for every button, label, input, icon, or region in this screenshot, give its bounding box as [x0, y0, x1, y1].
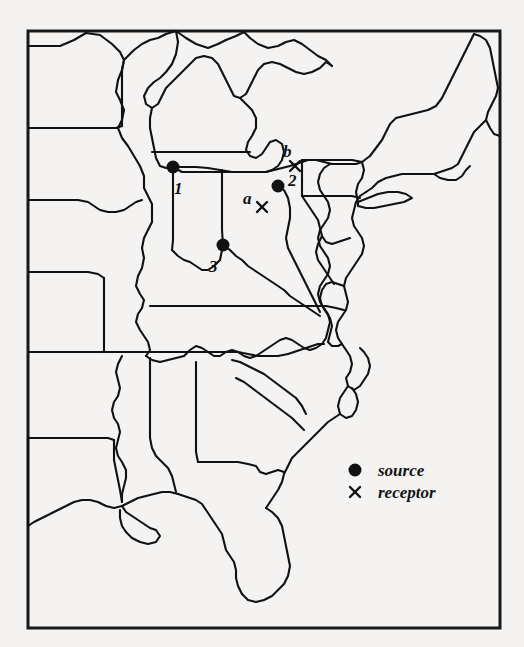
state-outlines: [28, 31, 500, 602]
border-maine-north: [474, 34, 498, 88]
us-map-svg: [0, 0, 524, 647]
border-georgia-alabama: [196, 362, 198, 462]
coast-michigan-lower-east: [173, 98, 284, 172]
border-minnesota-north: [28, 31, 176, 60]
legend-source-dot: [349, 464, 362, 477]
legend-receptor-x: [350, 487, 360, 497]
border-alabama-mississippi: [150, 358, 176, 492]
river-ohio-east: [318, 164, 336, 344]
border-indiana-ohio: [222, 170, 223, 245]
source-3-dot: [217, 239, 230, 252]
border-iowa-north: [28, 126, 122, 128]
border-pennsylvania-south: [302, 196, 360, 198]
coast-upper-peninsula-south: [144, 31, 332, 108]
border-illinois-south: [146, 338, 322, 362]
source-2-label: 2: [288, 172, 297, 189]
border-iowa-missouri: [28, 200, 142, 212]
border-newyork-north: [362, 34, 474, 162]
coast-michigan-lower-west: [150, 108, 173, 168]
border-arkansas-louisiana: [28, 438, 114, 440]
receptor-a-label: a: [243, 190, 252, 207]
coast-virginia-nc: [342, 344, 370, 390]
legend-receptor-label: receptor: [378, 484, 436, 501]
coast-southern-newengland: [366, 174, 434, 192]
coast-gulf: [28, 492, 178, 526]
border-ohio-westvirginia: [284, 190, 320, 312]
source-3-label: 3: [209, 258, 218, 275]
source-markers: [167, 161, 285, 252]
receptor-b-label: b: [283, 143, 292, 160]
receptor-a-x: [257, 202, 267, 212]
border-chesapeake: [320, 282, 344, 346]
coast-florida-west: [178, 494, 242, 594]
map-figure: 1 2 3 a b source receptor: [0, 0, 524, 647]
legend-symbols: [349, 464, 362, 498]
border-sc-ga: [236, 378, 304, 430]
border-nebraska-kansas: [28, 272, 104, 278]
coast-mississippi-delta: [120, 506, 160, 544]
coast-maine-east: [486, 88, 500, 136]
border-georgia-florida: [198, 462, 284, 474]
island-long-island: [358, 192, 412, 208]
coast-outer-banks: [338, 386, 358, 418]
border-sc-nc-north: [232, 360, 306, 414]
legend-source-label: source: [378, 462, 424, 479]
border-illinois-indiana: [172, 167, 173, 250]
source-2-dot: [272, 180, 285, 193]
source-1-label: 1: [174, 180, 183, 197]
border-illinois-west: [136, 222, 152, 356]
coast-delmarva: [336, 286, 348, 344]
border-louisiana-inner: [114, 440, 122, 502]
coast-florida-east: [242, 508, 290, 602]
border-pennsylvania-north: [302, 160, 362, 162]
border-virginia-nc: [236, 306, 344, 310]
coast-newengland: [434, 120, 486, 180]
source-1-dot: [167, 161, 180, 174]
map-frame: [28, 31, 500, 628]
border-wisconsin-north: [176, 31, 332, 66]
